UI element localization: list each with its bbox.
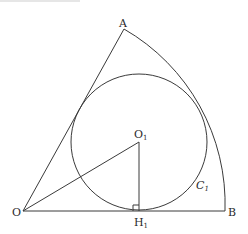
label-o: O [12,206,21,219]
segment-o-o1 [23,142,139,211]
label-c1-sub: 1 [204,185,208,193]
sector-oab [23,29,225,211]
label-h1: H1 [134,216,148,230]
label-o1-main: O [134,128,143,141]
label-b: B [228,206,236,219]
label-c1: C1 [196,179,209,193]
geometry-figure: A O B O1 H1 C1 [0,0,248,234]
label-h1-sub: 1 [144,222,148,230]
label-o1-sub: 1 [143,134,147,142]
label-a: A [118,17,128,30]
segment-oa [23,29,124,211]
label-h1-main: H [134,216,144,229]
label-o1: O1 [134,128,148,142]
